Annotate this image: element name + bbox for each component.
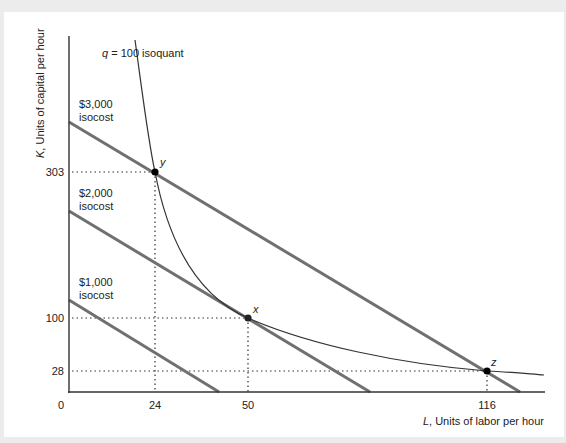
point-z-label: z <box>490 356 497 368</box>
isocost-1000-line <box>69 300 219 392</box>
y-tick-303: 303 <box>46 166 64 178</box>
isocost-3000-line <box>69 122 520 392</box>
point-z <box>483 367 490 374</box>
isocost-1000-label-line1: $1,000 <box>79 276 113 288</box>
y-axis-label: K, Units of capital per hour <box>34 28 46 158</box>
x-tick-24: 24 <box>149 399 161 411</box>
isoquant-label: q = 100 isoquant <box>102 47 184 59</box>
x-tick-0: 0 <box>58 399 64 411</box>
isocost-2000-label-line1: $2,000 <box>79 187 113 199</box>
isocost-2000-label-line2: isocost <box>79 200 113 212</box>
guide-lines <box>72 172 487 392</box>
point-y-label: y <box>159 156 167 168</box>
point-y <box>151 168 158 175</box>
isocost-1000-label-line2: isocost <box>79 289 113 301</box>
isoquant-curve <box>135 40 544 375</box>
isocost-3000-label-line2: isocost <box>79 111 113 123</box>
point-x-label: x <box>252 303 259 315</box>
isocost-2000-line <box>69 211 370 392</box>
x-tick-116: 116 <box>478 399 496 411</box>
isocost-3000-label-line1: $3,000 <box>79 98 113 110</box>
x-axis-label: L, Units of labor per hour <box>423 415 544 427</box>
x-tick-50: 50 <box>242 399 254 411</box>
point-x <box>244 314 251 321</box>
y-tick-28: 28 <box>52 365 64 377</box>
isocost-isoquant-chart: y x z q = 100 isoquant $3,000 isocost $2… <box>0 0 566 443</box>
y-tick-100: 100 <box>46 312 64 324</box>
